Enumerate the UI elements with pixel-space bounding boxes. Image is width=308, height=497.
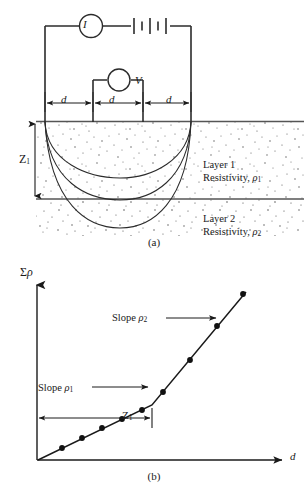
data-point: [214, 323, 220, 329]
y-axis-rho: ρ: [27, 265, 33, 279]
graph-depth-label-z1-sub: 1: [129, 413, 133, 422]
battery-symbol: [134, 18, 166, 34]
layer-1-resistivity-prefix: Resistivity,: [203, 172, 253, 183]
depth-label-z1-sub: 1: [26, 157, 30, 166]
data-point: [187, 357, 193, 363]
panel-a-caption: (a): [0, 236, 308, 248]
ammeter-label: I: [83, 18, 87, 32]
x-axis-label: d: [290, 450, 296, 464]
layer-2-annotation: Layer 2 Resistivity, ρ2: [203, 212, 261, 239]
y-axis-label: Σρ: [20, 265, 33, 280]
slope-rho-2-sub: 2: [144, 315, 148, 324]
spacing-label-d1: d: [61, 93, 67, 107]
layer-2-ground: [36, 199, 304, 236]
spacing-label-d3: d: [166, 93, 172, 107]
figure-svg: [0, 0, 308, 497]
slope-rho-2-annotation: Slope ρ2: [112, 311, 147, 324]
slope-rho-1-annotation: Slope ρ1: [38, 381, 73, 394]
voltmeter-label: V: [135, 74, 142, 88]
slope-rho-1-sub: 1: [70, 385, 74, 394]
layer-1-name: Layer 1: [203, 159, 235, 170]
data-point: [59, 445, 65, 451]
layer-1-resistivity-sub: 1: [258, 175, 262, 184]
layer-2-name: Layer 2: [203, 213, 235, 224]
data-point: [99, 425, 105, 431]
data-point: [240, 291, 246, 297]
graph-z1-dimension: [39, 408, 152, 428]
graph-depth-label-z1: Z1: [122, 409, 132, 423]
data-point: [79, 435, 85, 441]
layer-1-annotation: Layer 1 Resistivity, ρ1: [203, 158, 261, 185]
slope-rho-1-text: Slope: [38, 382, 65, 393]
y-axis-sigma: Σ: [20, 265, 27, 279]
slope-rho-2-text: Slope: [112, 312, 139, 323]
resistivity-figure: I V d d d Z1 Layer 1 Resistivity, ρ1 Lay…: [0, 0, 308, 497]
data-point: [160, 389, 166, 395]
data-point: [139, 407, 145, 413]
depth-label-z1: Z1: [19, 152, 30, 167]
graph-depth-label-z1-text: Z: [122, 409, 129, 421]
voltmeter: [108, 69, 130, 91]
panel-b-caption: (b): [0, 470, 308, 482]
spacing-label-d2: d: [109, 93, 115, 107]
